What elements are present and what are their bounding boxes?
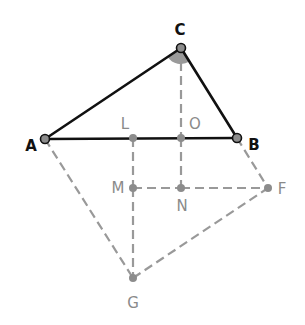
point-L: [129, 134, 137, 142]
label-N: N: [176, 197, 187, 215]
label-O: O: [189, 115, 201, 133]
label-L: L: [121, 115, 130, 133]
label-G: G: [127, 294, 139, 312]
geometry-diagram: ABCLOMNFG: [0, 0, 305, 325]
side-AB: [45, 138, 237, 139]
dashed-segment-AG: [45, 139, 133, 278]
side-CA: [45, 48, 181, 139]
point-N: [177, 184, 185, 192]
point-B: [233, 134, 242, 143]
point-A: [41, 135, 50, 144]
point-O: [177, 134, 185, 142]
point-C: [177, 44, 186, 53]
point-F: [264, 184, 272, 192]
label-M: M: [112, 179, 125, 197]
dashed-segment-GF: [133, 188, 268, 278]
point-G: [129, 274, 137, 282]
label-B: B: [248, 136, 259, 154]
label-C: C: [174, 21, 185, 39]
label-A: A: [25, 137, 37, 155]
label-F: F: [278, 180, 287, 198]
point-M: [129, 184, 137, 192]
